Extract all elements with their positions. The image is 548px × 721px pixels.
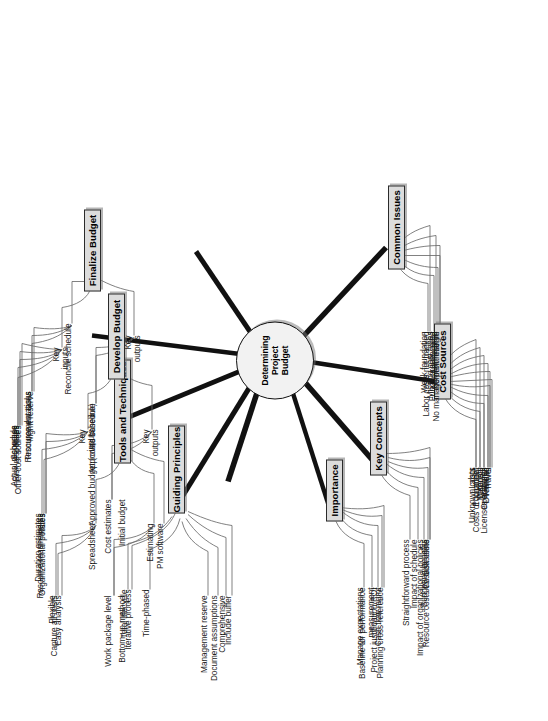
subbranch-label: Key outputs: [124, 335, 142, 373]
leaf-label: Easy analysis: [54, 595, 63, 663]
branch-label: Develop Budget: [112, 299, 122, 373]
branch-label: Importance: [330, 464, 340, 516]
branch-node-importance[interactable]: Importance: [326, 459, 343, 521]
leaf-label: Approved schedule: [88, 403, 97, 505]
leaf-label: Cost estimates: [104, 499, 113, 595]
leaf-label: Bottom-up method: [118, 595, 127, 689]
branch-node-guiding-principles[interactable]: Guiding Principles: [168, 425, 185, 513]
center-node-label: Determining Project Budget: [260, 335, 290, 385]
center-node[interactable]: Determining Project Budget: [236, 321, 314, 399]
mindmap-canvas: Determining Project Budget Guiding Princ…: [0, 0, 548, 721]
subbranch-label: Key outputs: [142, 429, 160, 467]
branch-node-finalize-budget[interactable]: Finalize Budget: [84, 209, 101, 291]
branch-node-common-issues[interactable]: Common Issues: [388, 185, 405, 269]
branch-label: Guiding Principles: [172, 426, 182, 512]
leaf-label: Planning cross-reference: [376, 587, 385, 703]
leaf-label: Organizational policies: [38, 513, 47, 623]
leaf-label: Work package level: [104, 595, 113, 689]
leaf-label: Include buffer: [224, 595, 233, 669]
leaf-label: Unknown costs: [468, 467, 477, 551]
branch-node-develop-budget[interactable]: Develop Budget: [108, 293, 125, 379]
subbranch-label: PM software: [156, 523, 165, 585]
branch-label: Key Concepts: [374, 406, 384, 471]
branch-node-key-concepts[interactable]: Key Concepts: [370, 401, 387, 475]
leaf-label: Time-phased: [142, 589, 151, 665]
leaf-label: Initial budget: [118, 499, 127, 575]
leaf-label: Management reserve: [200, 595, 209, 695]
branch-label: Common Issues: [392, 190, 402, 265]
subbranch-label: Estimating: [146, 523, 155, 577]
leaf-label: Mgmt reserve: [26, 391, 35, 467]
leaf-label: Resource costs vs. task costs: [422, 539, 431, 671]
mindmap-rotated-group: Determining Project Budget Guiding Princ…: [0, 0, 548, 721]
leaf-label: Other cost sources: [14, 425, 23, 519]
branch-label: Finalize Budget: [88, 214, 98, 286]
leaf-label: Labor costs not tracked: [422, 331, 431, 441]
subbranch-label: Reconcile schedule: [64, 323, 73, 433]
